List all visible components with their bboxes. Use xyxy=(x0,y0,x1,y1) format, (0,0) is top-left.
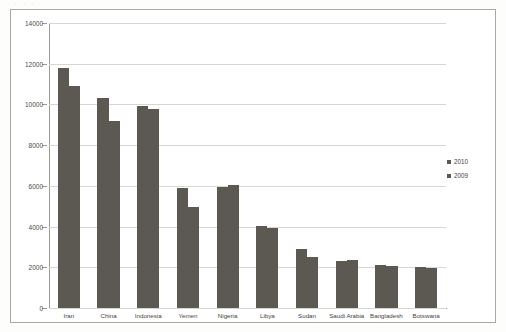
bar-2010-iran[interactable] xyxy=(58,68,69,308)
bar-2010-indonesia[interactable] xyxy=(137,106,148,308)
legend-label: 2010 xyxy=(454,158,468,165)
bar-group xyxy=(97,23,119,308)
bar-2009-yemen[interactable] xyxy=(188,207,199,308)
y-axis-tick-label: 6000 xyxy=(13,182,43,189)
bar-2010-sudan[interactable] xyxy=(296,249,307,308)
legend-item-2009[interactable]: 2009 xyxy=(447,172,487,179)
gridline xyxy=(49,308,446,309)
y-axis-tick-label: 4000 xyxy=(13,223,43,230)
bar-2009-indonesia[interactable] xyxy=(148,109,159,309)
x-axis-label-yemen: Yemen xyxy=(168,311,208,320)
bar-2009-saudi-arabia[interactable] xyxy=(347,260,358,308)
bar-2009-botswana[interactable] xyxy=(426,268,437,308)
bar-2010-libya[interactable] xyxy=(256,226,267,308)
bar-2010-china[interactable] xyxy=(97,98,108,308)
legend-label: 2009 xyxy=(454,172,468,179)
x-axis-label-libya: Libya xyxy=(248,311,288,320)
x-axis-label-sudan: Sudan xyxy=(287,311,327,320)
y-axis-tick-label: 2000 xyxy=(13,264,43,271)
bar-2009-iran[interactable] xyxy=(69,86,80,308)
bar-group xyxy=(217,23,239,308)
chart-page: · · · 02000400060008000100001200014000 I… xyxy=(0,0,506,332)
bar-2010-saudi-arabia[interactable] xyxy=(336,261,347,308)
x-axis-label-saudi-arabia: Saudi Arabia xyxy=(327,311,367,320)
bar-group xyxy=(256,23,278,308)
x-axis-label-china: China xyxy=(89,311,129,320)
bar-2009-bangladesh[interactable] xyxy=(386,266,397,308)
bar-2009-china[interactable] xyxy=(109,121,120,308)
bar-group xyxy=(137,23,159,308)
bar-2009-libya[interactable] xyxy=(267,228,278,308)
bar-2009-sudan[interactable] xyxy=(307,257,318,308)
y-axis-tick-label: 8000 xyxy=(13,142,43,149)
x-axis-label-indonesia: Indonesia xyxy=(128,311,168,320)
bar-group xyxy=(375,23,397,308)
bar-group xyxy=(415,23,437,308)
bar-2010-yemen[interactable] xyxy=(177,188,188,308)
chart-frame: 02000400060008000100001200014000 IranChi… xyxy=(10,9,496,323)
legend-item-2010[interactable]: 2010 xyxy=(447,158,487,165)
bar-group xyxy=(177,23,199,308)
bar-2010-nigeria[interactable] xyxy=(217,187,228,308)
bar-group xyxy=(58,23,80,308)
legend-swatch-icon xyxy=(447,174,451,178)
y-axis-tick-label: 10000 xyxy=(13,101,43,108)
y-axis-tick-label: 0 xyxy=(13,305,43,312)
bar-2010-bangladesh[interactable] xyxy=(375,265,386,308)
x-axis-label-iran: Iran xyxy=(49,311,89,320)
y-axis-tick-label: 12000 xyxy=(13,60,43,67)
bar-series-layer xyxy=(49,23,446,308)
x-axis-label-nigeria: Nigeria xyxy=(208,311,248,320)
bar-2010-botswana[interactable] xyxy=(415,267,426,308)
x-axis-labels: IranChinaIndonesiaYemenNigeriaLibyaSudan… xyxy=(49,311,446,325)
y-axis-tick-label: 14000 xyxy=(13,20,43,27)
x-axis-label-botswana: Botswana xyxy=(406,311,446,320)
chart-legend: 2010 2009 xyxy=(447,158,487,186)
bar-group xyxy=(296,23,318,308)
bar-group xyxy=(336,23,358,308)
clipped-title-remnant: · · · xyxy=(0,0,506,9)
x-axis-label-bangladesh: Bangladesh xyxy=(367,311,407,320)
plot-area: 02000400060008000100001200014000 xyxy=(49,23,446,308)
legend-swatch-icon xyxy=(447,160,451,164)
bar-2009-nigeria[interactable] xyxy=(228,185,239,308)
